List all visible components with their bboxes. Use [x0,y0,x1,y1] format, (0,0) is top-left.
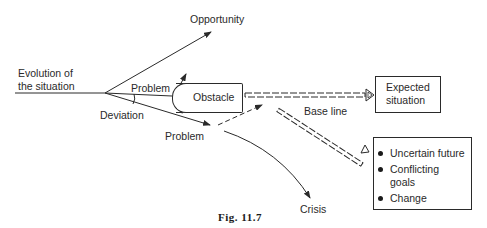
label-problem-upper: Problem [131,82,170,94]
expected-line2: situation [386,94,440,107]
factors-box: Uncertain future Conflicting goals Chang… [373,137,472,210]
label-crisis: Crisis [300,203,326,215]
label-problem-lower: Problem [165,130,204,142]
base-line-head [366,89,374,101]
label-opportunity: Opportunity [190,13,244,25]
factor-item: Uncertain future [376,147,471,160]
crisis-curve [224,131,310,198]
label-evolution-line2: the situation [18,80,75,92]
obstacle-label: Obstacle [193,91,234,103]
diagonal-head [361,145,369,153]
expected-situation-box: Expected situation [375,76,441,113]
label-deviation: Deviation [100,109,144,121]
label-base-line: Base line [304,105,347,117]
base-line-track [245,93,365,97]
obstacle-cap [172,83,195,113]
figure-caption: Fig. 11.7 [218,211,262,223]
label-evolution-line1: Evolution of [18,67,73,79]
factor-item: Change [376,192,471,205]
diagram-canvas: Evolution of the situation Opportunity P… [0,0,487,228]
factor-item: Conflicting goals [376,163,450,189]
expected-line1: Expected [386,81,440,94]
